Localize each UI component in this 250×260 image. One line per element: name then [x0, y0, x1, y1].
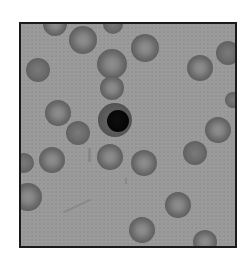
debris-fragment: [125, 178, 127, 184]
red-blood-cell: [66, 121, 90, 145]
red-blood-cell: [131, 34, 159, 62]
red-blood-cell: [187, 55, 213, 81]
red-blood-cell: [45, 100, 71, 126]
red-blood-cell: [131, 150, 157, 176]
red-blood-cell: [225, 92, 237, 108]
red-blood-cell: [129, 217, 155, 243]
red-blood-cell: [216, 41, 237, 65]
red-blood-cell: [26, 58, 50, 82]
red-blood-cell: [193, 230, 217, 248]
red-blood-cell: [100, 76, 124, 100]
micrograph-frame: [19, 22, 237, 248]
red-blood-cell: [97, 144, 123, 170]
red-blood-cell: [69, 26, 97, 54]
debris-fragment: [88, 148, 91, 162]
cell-nucleus: [107, 110, 129, 132]
red-blood-cell: [205, 117, 231, 143]
red-blood-cell: [165, 192, 191, 218]
red-blood-cell: [97, 49, 127, 79]
red-blood-cell: [39, 147, 65, 173]
red-blood-cell: [183, 141, 207, 165]
